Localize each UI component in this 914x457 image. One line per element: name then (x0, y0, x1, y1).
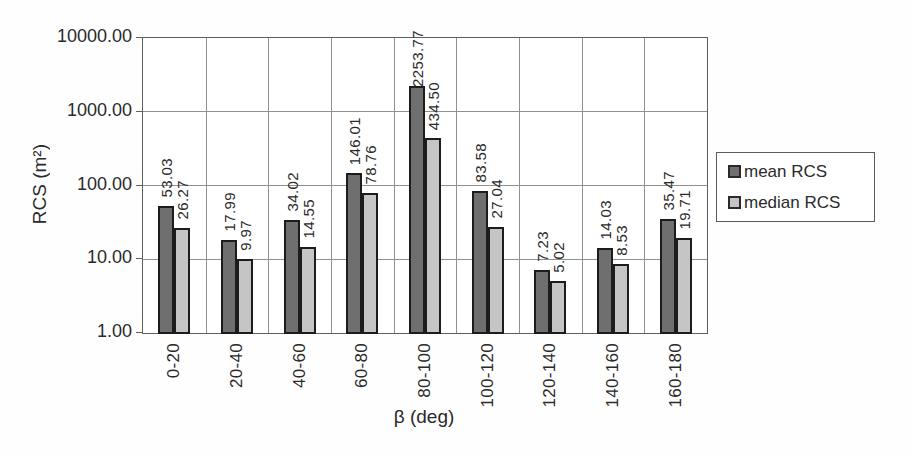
value-label-median-140-160: 8.53 (613, 225, 630, 256)
y-axis-tick (136, 185, 142, 186)
bar-median-100-120 (488, 227, 504, 334)
gridline-v (582, 38, 583, 333)
value-label-mean-60-80: 146.01 (346, 117, 363, 165)
plot-area: 53.0326.270-2017.999.9720-4034.0214.5540… (142, 37, 708, 334)
bar-median-40-60 (300, 247, 316, 334)
y-tick-label: 1.00 (0, 321, 132, 342)
value-label-median-0-20: 26.27 (174, 180, 191, 220)
bar-median-20-40 (237, 259, 253, 334)
gridline-v (644, 38, 645, 333)
value-label-mean-160-180: 35.47 (660, 171, 677, 211)
value-label-median-100-120: 27.04 (488, 179, 505, 219)
bar-mean-80-100 (409, 86, 425, 334)
gridline-v (456, 38, 457, 333)
bar-mean-120-140 (534, 270, 550, 334)
y-tick-label: 10.00 (0, 247, 132, 268)
gridline-v (268, 38, 269, 333)
gridline-v (331, 38, 332, 333)
x-tick-label-160-180: 160-180 (666, 343, 686, 408)
y-axis-tick (136, 332, 142, 333)
value-label-mean-40-60: 34.02 (284, 172, 301, 212)
bar-median-120-140 (550, 281, 566, 334)
x-tick-label-0-20: 0-20 (164, 343, 184, 378)
legend-item-mean: mean RCS (728, 162, 874, 182)
y-axis-tick (136, 37, 142, 38)
value-label-mean-80-100: 2253.77 (409, 30, 426, 87)
x-tick-label-20-40: 20-40 (227, 343, 247, 388)
y-tick-label: 1000.00 (0, 100, 132, 121)
y-axis-tick (136, 111, 142, 112)
value-label-median-40-60: 14.55 (300, 199, 317, 239)
value-label-median-120-140: 5.02 (550, 242, 567, 273)
value-label-mean-0-20: 53.03 (158, 158, 175, 198)
bar-mean-40-60 (284, 220, 300, 334)
bar-mean-140-160 (597, 248, 613, 334)
bar-mean-0-20 (158, 206, 174, 334)
bar-mean-60-80 (346, 173, 362, 334)
gridline-v (394, 38, 395, 333)
bar-median-140-160 (613, 264, 629, 334)
x-tick-label-80-100: 80-100 (415, 343, 435, 398)
rcs-bar-chart: RCS (m²) 53.0326.270-2017.999.9720-4034.… (0, 0, 914, 457)
x-tick-label-140-160: 140-160 (603, 343, 623, 408)
bar-median-0-20 (174, 228, 190, 334)
bar-mean-100-120 (472, 191, 488, 334)
value-label-median-20-40: 9.97 (237, 220, 254, 251)
legend-label-mean: mean RCS (744, 162, 827, 182)
value-label-mean-100-120: 83.58 (472, 143, 489, 183)
x-tick-label-60-80: 60-80 (352, 343, 372, 388)
x-tick-label-120-140: 120-140 (540, 343, 560, 408)
y-axis-tick (136, 258, 142, 259)
legend: mean RCS median RCS (716, 152, 875, 222)
x-tick-label-100-120: 100-120 (478, 343, 498, 408)
bar-median-160-180 (676, 238, 692, 334)
value-label-median-160-180: 19.71 (676, 190, 693, 230)
mean-series-swatch-icon (728, 165, 741, 178)
median-series-swatch-icon (728, 196, 741, 209)
bar-mean-20-40 (221, 240, 237, 334)
value-label-mean-20-40: 17.99 (221, 192, 238, 232)
bar-median-60-80 (362, 193, 378, 334)
y-tick-label: 10000.00 (0, 26, 132, 47)
bar-median-80-100 (425, 138, 441, 334)
x-axis-title: β (deg) (142, 406, 706, 428)
bar-mean-160-180 (660, 219, 676, 334)
legend-label-median: median RCS (744, 193, 840, 213)
value-label-mean-120-140: 7.23 (534, 231, 551, 262)
y-tick-label: 100.00 (0, 174, 132, 195)
value-label-mean-140-160: 14.03 (597, 200, 614, 240)
x-tick-label-40-60: 40-60 (290, 343, 310, 388)
value-label-median-60-80: 78.76 (362, 145, 379, 185)
gridline-v (519, 38, 520, 333)
legend-item-median: median RCS (728, 193, 874, 213)
value-label-median-80-100: 434.50 (425, 82, 442, 130)
gridline-v (206, 38, 207, 333)
